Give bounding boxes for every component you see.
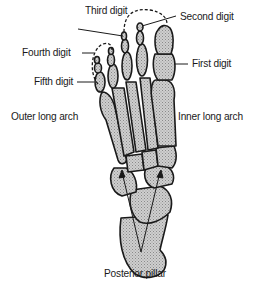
leader-second-digit (142, 16, 176, 26)
phalanx-4b (108, 54, 115, 66)
phalanx-2a (137, 44, 148, 76)
label-fifth-digit: Fifth digit (34, 75, 73, 87)
label-inner-long-arch: Inner long arch (178, 110, 243, 122)
phalanx-5b (95, 63, 102, 73)
leader-third-digit (78, 29, 123, 36)
phalanx-4a (108, 64, 118, 88)
phalanx-2b (137, 31, 144, 45)
cuneiform-lateral (126, 154, 144, 172)
label-posterior-pillar: Posterior pillar (104, 267, 166, 279)
label-third-digit: Third digit (85, 4, 128, 16)
label-second-digit: Second digit (180, 10, 234, 22)
phalanx-1b (155, 26, 173, 54)
phalanx-5c (95, 57, 100, 64)
label-outer-long-arch: Outer long arch (11, 110, 78, 122)
label-fourth-digit: Fourth digit (22, 46, 71, 58)
foot-skeleton-diagram (0, 0, 254, 286)
phalanx-4c (109, 48, 114, 55)
cuneiform-medial (156, 146, 176, 168)
phalanx-2c (137, 23, 143, 31)
phalanx-3b (122, 39, 129, 53)
label-first-digit: First digit (192, 57, 231, 69)
phalanx-1a (153, 54, 175, 80)
phalanx-3a (122, 52, 132, 80)
cuneiform-middle (142, 150, 158, 170)
